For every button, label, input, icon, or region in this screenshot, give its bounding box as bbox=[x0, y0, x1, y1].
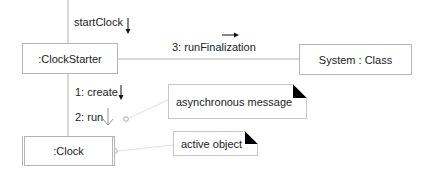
create-arrow-icon bbox=[119, 85, 124, 100]
message-startclock: startClock bbox=[74, 16, 123, 28]
object-clockstarter-label: :ClockStarter bbox=[38, 53, 102, 65]
object-clock-active[interactable]: :Clock bbox=[22, 136, 115, 166]
note-fold-corner-icon bbox=[293, 84, 307, 98]
object-system[interactable]: System : Class bbox=[299, 44, 412, 75]
active-note-connector bbox=[118, 145, 173, 151]
run-async-arrow-icon bbox=[103, 108, 113, 125]
message-create: 1: create bbox=[75, 86, 118, 98]
note-active-label: active object bbox=[181, 138, 242, 150]
note-asynchronous-message[interactable]: asynchronous message bbox=[168, 84, 307, 119]
object-system-label: System : Class bbox=[319, 54, 392, 66]
async-anchor-icon bbox=[124, 117, 129, 122]
message-runfinalization: 3: runFinalization bbox=[172, 41, 256, 53]
object-clock-label: :Clock bbox=[53, 145, 84, 157]
startclock-arrow-icon bbox=[126, 18, 131, 34]
runfinalization-arrow-icon bbox=[222, 33, 239, 38]
object-clockstarter[interactable]: :ClockStarter bbox=[22, 43, 118, 74]
note-async-label: asynchronous message bbox=[176, 96, 292, 108]
note-fold-corner-icon bbox=[245, 131, 258, 144]
async-note-connector bbox=[129, 100, 168, 118]
note-active-object[interactable]: active object bbox=[173, 131, 258, 156]
message-run: 2: run bbox=[75, 111, 103, 123]
